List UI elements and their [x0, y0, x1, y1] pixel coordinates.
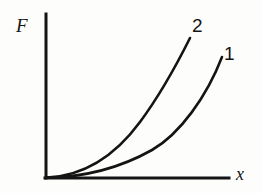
figure-container: F x 2 1	[0, 0, 263, 193]
y-axis-label: F	[16, 16, 28, 35]
x-axis-label: x	[236, 165, 244, 183]
curve-label-2: 2	[192, 16, 203, 35]
curve-2-path	[47, 38, 190, 178]
curve-label-1: 1	[224, 44, 235, 63]
curve-1-path	[47, 57, 222, 178]
plot-canvas	[0, 0, 263, 193]
